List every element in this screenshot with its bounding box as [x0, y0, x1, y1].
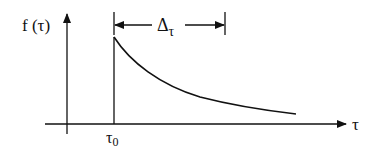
- interval-delta: Δ: [157, 15, 169, 35]
- decay-curve: [114, 37, 296, 114]
- start-marker-label: τ0: [106, 129, 118, 149]
- x-axis-label: τ: [352, 115, 359, 134]
- interval-label: Δτ: [157, 15, 175, 39]
- y-axis-label: f (τ): [22, 16, 50, 35]
- decay-diagram: f (τ) Δτ τ0 τ: [0, 0, 381, 152]
- start-marker-subscript: 0: [112, 135, 118, 149]
- interval-subscript: τ: [169, 24, 175, 39]
